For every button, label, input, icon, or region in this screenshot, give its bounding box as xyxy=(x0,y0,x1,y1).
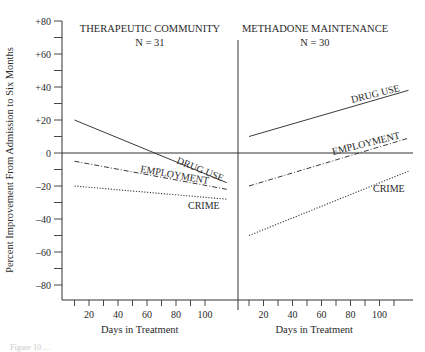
series-line-crime xyxy=(75,186,227,199)
y-axis: +80+60+40+200–20–40–60–80 xyxy=(35,16,238,311)
series-label: CRIME xyxy=(188,200,220,211)
panel-n: N = 30 xyxy=(300,37,329,48)
figure-caption: Figure 10.… xyxy=(10,343,51,352)
series-line-drug-use xyxy=(249,90,409,136)
y-tick-label: 0 xyxy=(46,148,51,159)
chart-canvas: +80+60+40+200–20–40–60–80 20406080100Day… xyxy=(0,0,425,352)
panel-title: THERAPEUTIC COMMUNITY xyxy=(80,23,221,34)
panel-methadone-maintenance: 20406080100Days in TreatmentMETHADONE MA… xyxy=(238,23,413,335)
y-tick-label: –80 xyxy=(35,280,51,291)
x-tick-label: 40 xyxy=(288,309,298,320)
panel-n: N = 31 xyxy=(135,37,164,48)
y-tick-label: –20 xyxy=(35,181,51,192)
panel-therapeutic-community: 20406080100Days in TreatmentTHERAPEUTIC … xyxy=(62,23,238,335)
y-tick-label: +60 xyxy=(35,49,51,60)
x-tick-label: 20 xyxy=(84,309,94,320)
y-tick-label: +40 xyxy=(35,82,51,93)
x-axis-label: Days in Treatment xyxy=(101,324,179,335)
x-tick-label: 40 xyxy=(113,309,123,320)
x-tick-label: 80 xyxy=(346,309,356,320)
y-tick-label: +80 xyxy=(35,16,51,27)
x-axis-label: Days in Treatment xyxy=(275,324,353,335)
y-tick-label: +20 xyxy=(35,115,51,126)
series-label: CRIME xyxy=(373,183,405,194)
x-tick-label: 100 xyxy=(198,309,213,320)
y-tick-label: –40 xyxy=(35,214,51,225)
y-tick-label: –60 xyxy=(35,247,51,258)
x-tick-label: 100 xyxy=(372,309,387,320)
x-tick-label: 80 xyxy=(171,309,181,320)
y-axis-label: Percent Improvement From Admission to Si… xyxy=(4,47,15,273)
panel-title: METHADONE MAINTENANCE xyxy=(242,23,388,34)
x-tick-label: 20 xyxy=(259,309,269,320)
x-tick-label: 60 xyxy=(142,309,152,320)
series-label: DRUG USE xyxy=(350,82,401,105)
series-line-crime xyxy=(249,171,409,235)
series-line-employment xyxy=(249,138,409,186)
x-tick-label: 60 xyxy=(317,309,327,320)
